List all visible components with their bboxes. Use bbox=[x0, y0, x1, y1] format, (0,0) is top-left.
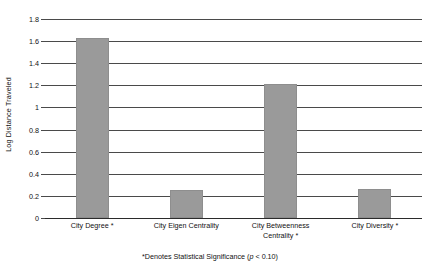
x-tick-label-line: City Diversity * bbox=[323, 221, 427, 231]
x-tick-label: City Eigen Centrality bbox=[134, 221, 238, 231]
y-tick-label: 0.6 bbox=[29, 147, 39, 156]
plot-area bbox=[45, 19, 422, 218]
bar-chart: Log Distance Traveled 00.20.40.60.811.21… bbox=[0, 0, 435, 273]
y-tick-label: 1.8 bbox=[29, 15, 39, 24]
axis-baseline bbox=[45, 218, 422, 219]
x-axis-tick-labels: City Degree *City Eigen CentralityCity B… bbox=[45, 221, 422, 251]
x-tick-label: City BetweennessCentrality * bbox=[229, 221, 333, 240]
bar[interactable] bbox=[358, 189, 391, 218]
x-tick-label: City Diversity * bbox=[323, 221, 427, 231]
bar[interactable] bbox=[170, 190, 203, 218]
x-tick-label-line: Centrality * bbox=[229, 231, 333, 241]
bar[interactable] bbox=[76, 38, 109, 218]
footnote-prefix: *Denotes Statistical Significance ( bbox=[142, 252, 249, 261]
y-axis-title: Log Distance Traveled bbox=[0, 0, 16, 228]
y-tick-label: 1.6 bbox=[29, 37, 39, 46]
y-tick-label: 1.4 bbox=[29, 59, 39, 68]
x-tick-label-line: City Degree * bbox=[40, 221, 144, 231]
x-tick-label: City Degree * bbox=[40, 221, 144, 231]
x-tick-label-line: City Eigen Centrality bbox=[134, 221, 238, 231]
y-axis-title-text: Log Distance Traveled bbox=[4, 77, 13, 152]
x-tick-label-line: City Betweenness bbox=[229, 221, 333, 231]
footnote: *Denotes Statistical Significance (p < 0… bbox=[0, 252, 420, 261]
bar[interactable] bbox=[264, 84, 297, 218]
bars-layer bbox=[45, 19, 422, 218]
y-tick-label: 1.2 bbox=[29, 81, 39, 90]
y-tick-label: 1 bbox=[35, 103, 39, 112]
y-tick-mark bbox=[41, 218, 45, 219]
y-axis-tick-labels: 00.20.40.60.811.21.41.61.8 bbox=[16, 0, 42, 228]
y-tick-label: 0.8 bbox=[29, 125, 39, 134]
y-tick-label: 0.4 bbox=[29, 169, 39, 178]
y-tick-label: 0.2 bbox=[29, 191, 39, 200]
y-tick-label: 0 bbox=[35, 214, 39, 223]
footnote-suffix: < 0.10) bbox=[253, 252, 278, 261]
